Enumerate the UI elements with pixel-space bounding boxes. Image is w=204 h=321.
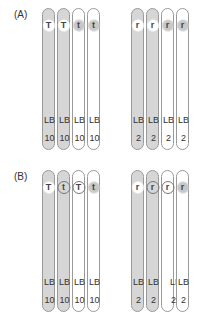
band-label: LB [86, 115, 103, 125]
chromosome: tLB10 [87, 8, 100, 150]
chromosome: TLB10 [42, 170, 55, 312]
allele-marker: r [161, 181, 174, 194]
allele-marker: r [146, 181, 159, 194]
chromosome: rLB2 [161, 170, 174, 312]
chromosome-number: 2 [145, 295, 162, 305]
chromosome-number: 2 [175, 133, 192, 143]
allele-marker: r [161, 19, 174, 32]
chromosome: tLB10 [57, 170, 70, 312]
chromosome: TLB10 [42, 8, 55, 150]
allele-marker: r [131, 181, 144, 194]
allele-marker: t [72, 19, 85, 32]
chromosome: TLB10 [72, 170, 85, 312]
allele-marker: r [176, 181, 189, 194]
panel-label: (B) [14, 171, 27, 182]
chromosome-number: 2 [175, 295, 192, 305]
chromosome-number: 10 [86, 133, 103, 143]
allele-marker: T [42, 181, 55, 194]
allele-marker: t [57, 181, 70, 194]
chromosome: rLB2 [176, 8, 189, 150]
chromosome: TLB10 [57, 8, 70, 150]
chromosome: rLB2 [176, 170, 189, 312]
band-label: LB [145, 277, 162, 287]
allele-marker: T [57, 19, 70, 32]
allele-marker: t [87, 19, 100, 32]
chromosome: rLB2 [131, 170, 144, 312]
allele-marker: T [72, 181, 85, 194]
chromosome: rLB2 [131, 8, 144, 150]
chromosome: tLB10 [72, 8, 85, 150]
allele-marker: r [176, 19, 189, 32]
allele-marker: r [146, 19, 159, 32]
allele-marker: r [131, 19, 144, 32]
panel-label: (A) [14, 9, 27, 20]
band-label: LB [175, 277, 192, 287]
chromosome: tLB10 [87, 170, 100, 312]
band-label: LB [86, 277, 103, 287]
chromosome: rLB2 [146, 8, 159, 150]
chromosome: rLB2 [161, 8, 174, 150]
chromosome-number: 10 [86, 295, 103, 305]
allele-marker: T [42, 19, 55, 32]
chromosome: rLB2 [146, 170, 159, 312]
band-label: LB [175, 115, 192, 125]
allele-marker: t [87, 181, 100, 194]
